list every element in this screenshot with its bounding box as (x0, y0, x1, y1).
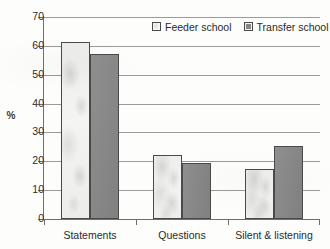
gridline (44, 17, 320, 18)
bar-transfer-0 (90, 54, 119, 219)
x-axis-label-0: Statements (44, 228, 136, 242)
x-axis-label-group: StatementsQuestionsSilent & listening (44, 228, 320, 246)
x-axis-tick-group (44, 219, 320, 226)
y-axis-tick-label: 10 (10, 184, 44, 195)
x-axis-tick (228, 219, 229, 225)
legend-label-feeder-school: Feeder school (165, 21, 232, 33)
y-axis-tick-label: 30 (10, 126, 44, 137)
y-axis-tick-group: 706050403020100 (0, 0, 44, 249)
bar-transfer-1 (182, 163, 211, 219)
bar-feeder-2 (245, 169, 274, 219)
bar-transfer-2 (274, 146, 303, 219)
x-axis-label-1: Questions (136, 228, 228, 242)
x-axis-tick (136, 219, 137, 225)
y-axis-tick-label: 50 (10, 69, 44, 80)
legend-item-feeder-school: Feeder school (152, 21, 232, 33)
y-axis-tick-label: 60 (10, 40, 44, 51)
y-axis-tick-label: 70 (10, 11, 44, 22)
y-axis-tick-label: 20 (10, 155, 44, 166)
y-axis-tick-label: 0 (10, 213, 44, 224)
chart-legend: Feeder school Transfer school (152, 19, 329, 34)
y-axis-tick-label: 40 (10, 98, 44, 109)
legend-item-transfer-school: Transfer school (244, 21, 329, 33)
legend-swatch-gray-icon (244, 22, 253, 31)
bar-chart-figure: % 706050403020100 StatementsQuestionsSil… (0, 0, 330, 249)
bar-feeder-1 (153, 155, 182, 219)
plot-area (44, 17, 320, 219)
legend-swatch-light-icon (152, 22, 161, 31)
legend-label-transfer-school: Transfer school (257, 21, 329, 33)
x-axis-tick (44, 219, 45, 225)
x-axis-label-2: Silent & listening (228, 228, 320, 242)
bar-feeder-0 (61, 42, 90, 219)
x-axis-tick (319, 219, 320, 225)
